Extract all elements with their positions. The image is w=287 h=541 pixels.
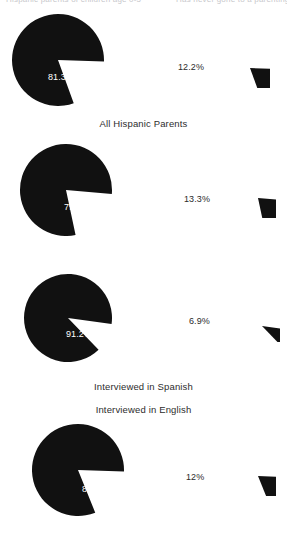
pie-chart-row: 79.3%13.3% xyxy=(0,136,287,266)
pie-chart-figure: Hispanic parents of children age 0-5 Has… xyxy=(0,0,287,541)
chart-group-caption: Interviewed in Spanish xyxy=(0,381,287,392)
minor-slice-percent-label: 12.2% xyxy=(178,62,204,72)
clipped-header-left: Hispanic parents of children age 0-5 xyxy=(6,0,141,4)
exploded-minor-slice xyxy=(204,424,276,496)
major-slice-percent-label: 79.3% xyxy=(64,202,90,212)
chart-group-caption: All Hispanic Parents xyxy=(0,118,287,129)
major-slice-percent-label: 81.3% xyxy=(48,72,74,82)
clipped-header-text: Hispanic parents of children age 0-5 Has… xyxy=(0,0,287,4)
minor-slice-percent-label: 13.3% xyxy=(184,194,210,204)
exploded-minor-slice xyxy=(214,276,280,342)
exploded-minor-slice xyxy=(198,16,270,88)
major-slice-percent-label: 82% xyxy=(82,484,100,494)
major-slice-pie: 82% xyxy=(30,416,130,516)
minor-slice-percent-label: 6.9% xyxy=(189,316,210,326)
clipped-header-right: Has never gone to a parenting class xyxy=(176,0,287,4)
major-slice-pie: 81.3% xyxy=(10,6,110,106)
pie-chart-row: 82%12% xyxy=(0,416,287,541)
major-slice-pie: 79.3% xyxy=(18,136,118,236)
pie-chart-row: 81.3%12.2% xyxy=(0,6,287,136)
pie-chart-row: 91.2%6.9% xyxy=(0,266,287,396)
major-slice-percent-label: 91.2% xyxy=(66,329,92,339)
exploded-minor-slice xyxy=(204,146,276,218)
chart-group-caption: Interviewed in English xyxy=(0,404,287,415)
major-slice-pie: 91.2% xyxy=(22,266,118,362)
minor-slice-percent-label: 12% xyxy=(186,472,204,482)
